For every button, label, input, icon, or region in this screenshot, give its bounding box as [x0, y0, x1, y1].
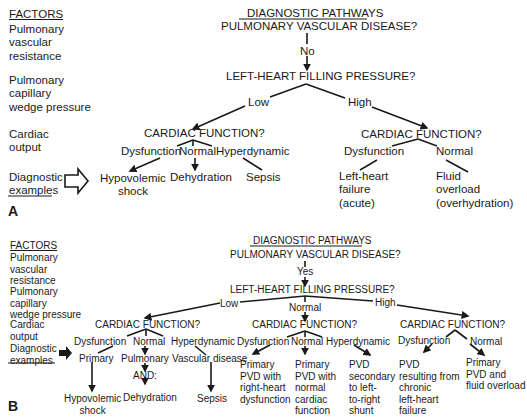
low-cardiac-question: CARDIAC FUNCTION?: [95, 320, 200, 330]
low-sub-pulmonary: Pulmonary: [121, 354, 169, 364]
example-sepsis: Sepsis: [197, 394, 227, 404]
high-cardiac-question: CARDIAC FUNCTION?: [400, 320, 505, 330]
panel-label-b: B: [8, 399, 18, 413]
example-fluid-overload: Fluid overload (overhydration): [436, 170, 513, 210]
example-hypovolemic-shock: Hypovolemic shock: [100, 172, 166, 199]
normal-cardiac-question: CARDIAC FUNCTION?: [252, 320, 357, 330]
low-cardiac-question: CARDIAC FUNCTION?: [144, 128, 265, 140]
example-dehydration: Dehydration: [170, 172, 232, 184]
example-left-heart-failure: Left-heart failure (acute): [339, 170, 388, 210]
low-normal: Normal: [133, 337, 165, 347]
question-pvd: PULMONARY VASCULAR DISEASE?: [221, 21, 417, 33]
outline-arrow-icon: [65, 169, 88, 193]
factor-pcwp: Pulmonary capillary wedge pressure: [10, 286, 81, 321]
example-sepsis: Sepsis: [246, 172, 281, 184]
branch-high: High: [375, 298, 396, 308]
answer-yes: Yes: [297, 267, 313, 277]
low-sub-primary: Primary: [79, 354, 113, 364]
normal-normal: Normal: [291, 337, 323, 347]
factors-header: FACTORS: [9, 9, 63, 21]
pathways-title: DIAGNOSTIC PATHWAYS: [247, 8, 383, 20]
factor-diagnostic-examples: Diagnostic examples: [9, 171, 63, 198]
example-pvd-shunt: PVD secondary to left- to-right shunt: [349, 359, 395, 417]
low-normal: Normal: [179, 146, 216, 158]
branch-high: High: [348, 97, 372, 109]
branch-low: Low: [248, 97, 269, 109]
factor-cardiac-output: Cardiac output: [9, 128, 49, 155]
low-dysfunction: Dysfunction: [74, 337, 126, 347]
normal-dysfunction: Dysfunction: [237, 337, 289, 347]
branch-low: Low: [220, 299, 238, 309]
answer-no: No: [300, 46, 315, 58]
example-primary-pvd-normal-cardiac: Primary PVD with normal cardiac function: [295, 359, 336, 417]
question-pvd: PULMONARY VASCULAR DISEASE?: [230, 250, 401, 260]
question-lhfp: LEFT-HEART FILLING PRESSURE?: [230, 285, 395, 295]
example-pvd-chronic-lhf: PVD resulting from chronic left-heart fa…: [399, 359, 460, 417]
low-sub-vascular-disease: Vascular disease: [172, 354, 247, 364]
high-dysfunction: Dysfunction: [398, 336, 450, 346]
low-hyperdynamic: Hyperdynamic: [171, 337, 235, 347]
factor-pcwp: Pulmonary capillary wedge pressure: [9, 74, 91, 114]
panel-label-a: A: [8, 204, 18, 218]
normal-hyperdynamic: Hyperdynamic: [326, 337, 390, 347]
question-lhfp: LEFT-HEART FILLING PRESSURE?: [226, 71, 415, 83]
high-normal: Normal: [470, 337, 502, 347]
low-dysfunction: Dysfunction: [121, 146, 181, 158]
high-dysfunction: Dysfunction: [344, 146, 404, 158]
example-dehydration: Dehydration: [123, 393, 177, 403]
factor-pvr: Pulmonary vascular resistance: [10, 252, 58, 287]
example-primary-pvd-right-heart: Primary PVD with right-heart dysfunction: [240, 359, 291, 405]
pathways-title: DIAGNOSTIC PATHWAYS: [253, 236, 372, 246]
branch-normal: Normal: [289, 303, 321, 313]
solid-arrow-icon: [59, 346, 72, 360]
high-normal: Normal: [436, 146, 473, 158]
example-hypovolemic-shock: Hypovolemic shock: [64, 393, 121, 416]
factor-cardiac-output: Cardiac output: [10, 319, 44, 342]
factors-header: FACTORS: [10, 241, 57, 251]
low-hyperdynamic: Hyperdynamic: [216, 146, 290, 158]
high-cardiac-question: CARDIAC FUNCTION?: [361, 129, 482, 141]
low-sub-and: AND:: [133, 371, 157, 381]
example-primary-pvd-fluid-overload: Primary PVD and fluid overload: [466, 357, 525, 392]
factor-diagnostic-examples: Diagnostic examples: [10, 343, 57, 366]
factor-pvr: Pulmonary vascular resistance: [9, 23, 64, 63]
